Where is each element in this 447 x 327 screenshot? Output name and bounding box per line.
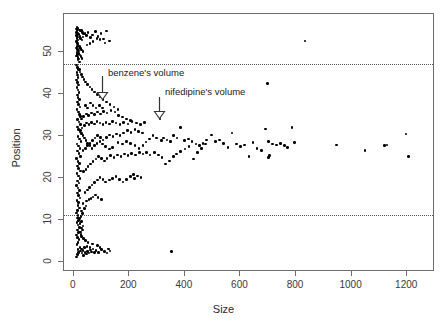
data-point — [129, 175, 132, 178]
data-point — [87, 31, 90, 34]
data-point — [386, 144, 389, 147]
data-point — [99, 113, 102, 116]
data-point — [95, 158, 98, 161]
data-point — [113, 106, 116, 109]
data-point — [204, 143, 207, 146]
data-point — [407, 155, 410, 158]
y-axis-tick — [58, 51, 63, 52]
data-point — [117, 108, 120, 111]
data-point — [106, 112, 109, 115]
data-point — [109, 250, 112, 253]
y-axis-label: Position — [10, 118, 22, 178]
x-axis-tick-label: 600 — [231, 279, 248, 290]
data-point — [99, 38, 102, 41]
data-point — [166, 139, 169, 142]
data-point — [96, 142, 99, 145]
data-point — [195, 143, 198, 146]
data-point — [88, 123, 91, 126]
data-point — [264, 128, 267, 131]
data-point — [129, 119, 132, 122]
data-point — [107, 248, 110, 251]
y-axis-tick-label: 50 — [42, 42, 53, 60]
data-point — [110, 109, 113, 112]
data-point — [91, 34, 94, 37]
data-point — [89, 42, 92, 45]
data-point — [85, 168, 88, 171]
x-axis-tick-label: 1000 — [340, 279, 362, 290]
data-point — [130, 152, 133, 155]
data-point — [114, 111, 117, 114]
data-point — [79, 129, 82, 132]
data-point — [80, 215, 83, 218]
data-point — [96, 120, 99, 123]
data-point — [134, 128, 137, 131]
data-point — [101, 107, 104, 110]
data-point — [100, 198, 103, 201]
data-point — [252, 141, 255, 144]
data-point — [82, 50, 85, 53]
data-point — [137, 130, 140, 133]
data-point — [93, 123, 96, 126]
data-point — [286, 146, 289, 149]
data-point — [78, 217, 81, 220]
data-point — [82, 134, 85, 137]
data-point — [106, 252, 109, 255]
data-point — [235, 143, 238, 146]
data-point — [96, 37, 99, 40]
data-point — [79, 155, 82, 158]
data-point — [200, 147, 203, 150]
data-point — [127, 154, 130, 157]
data-point — [175, 153, 178, 156]
y-axis-tick-label: 0 — [42, 252, 53, 270]
data-point — [94, 30, 97, 33]
data-point — [99, 140, 102, 143]
data-point — [85, 34, 88, 37]
data-point — [125, 178, 128, 181]
data-point — [364, 149, 367, 152]
y-axis-tick-label: 30 — [42, 126, 53, 144]
data-point — [145, 151, 148, 154]
data-point — [92, 160, 95, 163]
data-point — [89, 36, 92, 39]
data-point — [184, 148, 187, 151]
data-point — [179, 150, 182, 153]
data-point — [140, 176, 143, 179]
data-point — [102, 38, 105, 41]
data-point — [93, 144, 96, 147]
data-point — [142, 153, 145, 156]
data-point — [97, 251, 100, 254]
data-point — [84, 191, 87, 194]
data-point — [80, 227, 83, 230]
data-point — [188, 145, 191, 148]
data-point — [183, 139, 186, 142]
data-point — [102, 123, 105, 126]
data-point — [92, 104, 95, 107]
data-point — [87, 165, 90, 168]
data-point — [93, 113, 96, 116]
data-point — [108, 123, 111, 126]
x-axis-tick-label: 400 — [176, 279, 193, 290]
upper-dotted-line — [64, 64, 433, 65]
data-point — [120, 155, 123, 158]
data-point — [248, 155, 251, 158]
data-point — [82, 202, 85, 205]
data-point — [95, 107, 98, 110]
x-axis-tick-label: 1200 — [395, 279, 417, 290]
x-axis-tick — [184, 271, 185, 276]
data-point — [79, 123, 82, 126]
data-point — [260, 149, 263, 152]
data-point — [169, 140, 172, 143]
annotation-arrow-1 — [153, 97, 166, 120]
data-point — [142, 144, 145, 147]
data-point — [126, 129, 129, 132]
y-axis-tick — [58, 93, 63, 94]
data-point — [75, 256, 78, 259]
data-point — [196, 151, 199, 154]
data-point — [283, 144, 286, 147]
data-point — [121, 116, 124, 119]
data-point — [99, 136, 102, 139]
data-point — [105, 101, 108, 104]
data-point — [78, 68, 81, 71]
data-point — [267, 140, 270, 143]
x-axis-tick — [73, 271, 74, 276]
